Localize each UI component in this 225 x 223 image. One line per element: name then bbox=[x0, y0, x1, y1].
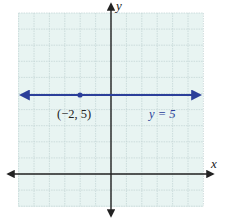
point-label: (−2, 5) bbox=[57, 107, 91, 121]
coordinate-plane: y x (−2, 5) y = 5 bbox=[0, 0, 225, 223]
line-equation-label: y = 5 bbox=[147, 107, 175, 121]
point-neg2-5 bbox=[77, 92, 82, 97]
y-axis-label: y bbox=[114, 0, 122, 13]
x-axis-label: x bbox=[210, 156, 217, 171]
